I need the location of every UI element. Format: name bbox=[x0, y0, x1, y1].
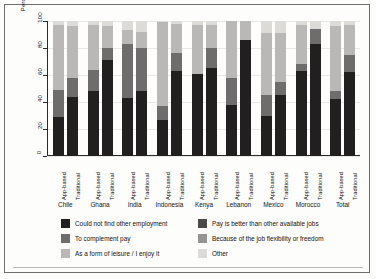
bar-total-app-based[interactable] bbox=[330, 21, 341, 156]
bar-total-traditional[interactable] bbox=[344, 21, 355, 156]
bar-group-ghana bbox=[88, 21, 113, 156]
bar-ghana-traditional[interactable] bbox=[102, 21, 113, 156]
bar-segment-leisure-or-enjoy bbox=[330, 26, 341, 91]
bar-segment-could-not-find-other-employment bbox=[344, 72, 355, 156]
bar-mexico-app-based[interactable] bbox=[261, 21, 272, 156]
bar-segment-could-not-find-other-employment bbox=[206, 68, 217, 156]
bar-type-label-traditional: Traditional bbox=[352, 173, 358, 200]
bar-kenya-app-based[interactable] bbox=[192, 21, 203, 156]
bar-segment-could-not-find-other-employment bbox=[102, 60, 113, 156]
bar-segment-leisure-or-enjoy bbox=[192, 25, 203, 74]
bar-segment-other bbox=[53, 21, 64, 25]
chart-frame: Percentage of respondents 020406080100 A… bbox=[4, 4, 370, 273]
bar-lebanon-traditional[interactable] bbox=[240, 21, 251, 156]
bar-ghana-app-based[interactable] bbox=[88, 21, 99, 156]
bar-segment-leisure-or-enjoy bbox=[53, 25, 64, 90]
y-tick-20: 20 bbox=[31, 122, 47, 132]
bar-segment-other bbox=[157, 21, 168, 22]
bars-container bbox=[48, 21, 360, 156]
y-tickmark bbox=[43, 129, 47, 130]
bar-segment-other bbox=[330, 21, 341, 26]
bar-morocco-app-based[interactable] bbox=[296, 21, 307, 156]
bar-segment-leisure-or-enjoy bbox=[157, 22, 168, 106]
bar-segment-other bbox=[261, 21, 272, 33]
bar-type-label-traditional: Traditional bbox=[75, 173, 81, 200]
bar-chile-traditional[interactable] bbox=[67, 21, 78, 156]
plot-area: Percentage of respondents 020406080100 A… bbox=[5, 5, 371, 205]
bar-segment-could-not-find-other-employment bbox=[88, 91, 99, 156]
bar-segment-other bbox=[171, 21, 182, 24]
legend-swatch bbox=[61, 249, 70, 258]
y-tickmark bbox=[43, 156, 47, 157]
legend-label: As a form of leisure / I enjoy it bbox=[75, 249, 159, 258]
y-tick-0: 0 bbox=[31, 149, 47, 159]
category-label-india: India bbox=[117, 201, 152, 208]
category-label-mexico: Mexico bbox=[256, 201, 291, 208]
y-tickmark bbox=[43, 21, 47, 22]
legend-label: Other bbox=[212, 249, 228, 258]
bar-segment-to-complement-pay bbox=[157, 106, 168, 120]
bar-chile-app-based[interactable] bbox=[53, 21, 64, 156]
bar-segment-leisure-or-enjoy bbox=[206, 25, 217, 48]
bar-type-label-traditional: Traditional bbox=[283, 173, 289, 200]
bar-morocco-traditional[interactable] bbox=[310, 21, 321, 156]
bar-segment-could-not-find-other-employment bbox=[310, 44, 321, 156]
bar-type-label-traditional: Traditional bbox=[317, 173, 323, 200]
category-label-kenya: Kenya bbox=[187, 201, 222, 208]
bar-kenya-traditional[interactable] bbox=[206, 21, 217, 156]
y-tick-label: 80 bbox=[35, 41, 42, 48]
bar-segment-leisure-or-enjoy bbox=[67, 26, 78, 77]
bar-segment-to-complement-pay bbox=[206, 48, 217, 68]
bar-segment-could-not-find-other-employment bbox=[136, 91, 147, 156]
bar-india-app-based[interactable] bbox=[122, 21, 133, 156]
legend-swatch bbox=[198, 249, 207, 258]
bar-segment-leisure-or-enjoy bbox=[344, 25, 355, 55]
legend-swatch bbox=[198, 234, 207, 243]
bar-type-label-app-based: App-based bbox=[269, 172, 275, 200]
bar-segment-leisure-or-enjoy bbox=[122, 30, 133, 44]
bar-type-label-app-based: App-based bbox=[61, 172, 67, 200]
bar-segment-other bbox=[67, 21, 78, 26]
bar-segment-other bbox=[296, 21, 307, 25]
legend-label: Could not find other employment bbox=[75, 219, 167, 228]
bar-type-label-traditional: Traditional bbox=[248, 173, 254, 200]
y-tick-100: 100 bbox=[31, 14, 47, 24]
y-tick-40: 40 bbox=[31, 95, 47, 105]
bar-indonesia-app-based[interactable] bbox=[157, 21, 168, 156]
bar-segment-could-not-find-other-employment bbox=[240, 40, 251, 156]
y-tick-label: 60 bbox=[35, 68, 42, 75]
y-tickmark bbox=[43, 102, 47, 103]
y-tick-label: 100 bbox=[35, 12, 42, 22]
bar-lebanon-app-based[interactable] bbox=[226, 21, 237, 156]
bar-segment-to-complement-pay bbox=[330, 91, 341, 99]
bar-segment-could-not-find-other-employment bbox=[296, 71, 307, 156]
bar-segment-leisure-or-enjoy bbox=[261, 33, 272, 95]
bar-group-india bbox=[122, 21, 147, 156]
bar-group-morocco bbox=[296, 21, 321, 156]
bar-segment-leisure-or-enjoy bbox=[296, 25, 307, 64]
bar-group-indonesia bbox=[157, 21, 182, 156]
bar-segment-leisure-or-enjoy bbox=[240, 21, 251, 40]
bar-mexico-traditional[interactable] bbox=[275, 21, 286, 156]
bar-group-mexico bbox=[261, 21, 286, 156]
bar-segment-other bbox=[310, 21, 321, 29]
y-tick-80: 80 bbox=[31, 41, 47, 51]
bar-segment-to-complement-pay bbox=[275, 82, 286, 96]
bar-segment-to-complement-pay bbox=[296, 64, 307, 71]
bar-group-total bbox=[330, 21, 355, 156]
bar-segment-to-complement-pay bbox=[261, 95, 272, 115]
x-axis-category-labels: ChileGhanaIndiaIndonesiaKenyaLebanonMexi… bbox=[48, 201, 360, 213]
bar-type-label-app-based: App-based bbox=[165, 172, 171, 200]
bar-indonesia-traditional[interactable] bbox=[171, 21, 182, 156]
bar-segment-other bbox=[192, 21, 203, 25]
bar-segment-to-complement-pay bbox=[344, 55, 355, 73]
bar-segment-could-not-find-other-employment bbox=[53, 117, 64, 156]
bar-segment-leisure-or-enjoy bbox=[102, 26, 113, 48]
bar-india-traditional[interactable] bbox=[136, 21, 147, 156]
bar-type-label-app-based: App-based bbox=[95, 172, 101, 200]
category-label-indonesia: Indonesia bbox=[152, 201, 187, 208]
y-tickmark bbox=[43, 75, 47, 76]
bar-segment-to-complement-pay bbox=[53, 90, 64, 117]
bar-segment-other bbox=[206, 21, 217, 25]
legend-label: To complement pay bbox=[75, 234, 130, 243]
